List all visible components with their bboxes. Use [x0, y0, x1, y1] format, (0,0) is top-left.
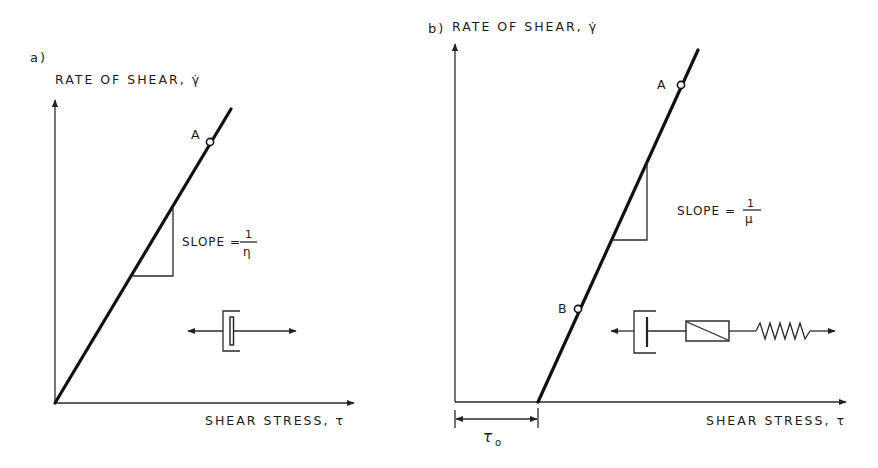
- panel-b-slope-label: SLOPE =: [677, 204, 736, 218]
- panel-b-point-b-label: B: [558, 301, 569, 316]
- panel-b-y-axis-label: RATE OF SHEAR, γ̇: [452, 19, 598, 34]
- panel-a-label: a): [30, 50, 47, 65]
- panel-a-slope-denominator: η: [243, 245, 253, 259]
- panel-b-label: b): [428, 21, 445, 36]
- panel-a: a) RATE OF SHEAR, γ̇ SHEAR STRESS, τ A S…: [30, 50, 354, 428]
- panel-a-slope-numerator: 1: [245, 228, 254, 241]
- panel-b: b) RATE OF SHEAR, γ̇ SHEAR STRESS, τ A B…: [428, 19, 846, 448]
- panel-b-point-b: [574, 305, 581, 312]
- friction-slider-icon: [686, 321, 729, 341]
- yield-stress-subscript: o: [495, 437, 503, 448]
- panel-a-point-a-label: A: [191, 127, 202, 142]
- yield-stress-label: τ: [483, 428, 494, 446]
- bingham-model-icon: [611, 311, 835, 353]
- panel-a-y-axis-label: RATE OF SHEAR, γ̇: [55, 72, 201, 87]
- panel-b-x-axis-label: SHEAR STRESS, τ: [706, 413, 846, 428]
- yield-stress-dimension: τ o: [455, 408, 538, 448]
- panel-b-point-a: [677, 81, 684, 88]
- panel-a-slope-label: SLOPE =: [182, 235, 241, 249]
- panel-b-flow-line: [538, 50, 698, 402]
- dashpot-icon: [634, 311, 686, 353]
- panel-b-slope-numerator: 1: [747, 197, 756, 210]
- panel-a-point-a: [206, 138, 213, 145]
- panel-b-point-a-label: A: [657, 77, 668, 92]
- spring-icon: [756, 323, 810, 339]
- panel-b-slope-denominator: μ: [745, 212, 755, 226]
- rheology-diagram: a) RATE OF SHEAR, γ̇ SHEAR STRESS, τ A S…: [0, 0, 878, 468]
- panel-a-flow-line: [55, 109, 231, 403]
- dashpot-icon: [188, 311, 296, 351]
- panel-a-x-axis-label: SHEAR STRESS, τ: [205, 413, 345, 428]
